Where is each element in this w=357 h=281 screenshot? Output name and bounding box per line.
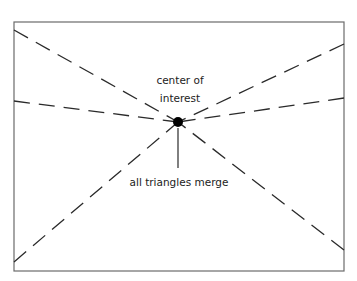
- picture-frame: [14, 22, 344, 271]
- dashed-line-left-middle: [14, 101, 178, 122]
- center-of-interest-dot: [173, 117, 183, 127]
- center-of-interest-label-line2: interest: [160, 93, 200, 104]
- center-of-interest-label-line1: center of: [156, 75, 203, 86]
- dashed-line-bottom-left: [14, 122, 178, 262]
- all-triangles-merge-label: all triangles merge: [130, 177, 229, 188]
- converging-dashed-lines: [14, 30, 344, 262]
- dashed-line-top-left: [14, 30, 178, 122]
- composition-diagram: [0, 0, 357, 281]
